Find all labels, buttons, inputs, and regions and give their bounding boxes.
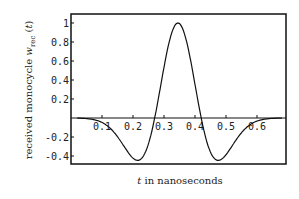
y-tick-label: -0.2 [45,132,69,143]
x-tick-label: 0.5 [217,121,235,132]
x-tick-label: 0.4 [186,121,204,132]
x-tick-label: 0.2 [124,121,142,132]
y-tick-label: 0.2 [51,94,69,105]
y-axis-label: received monocycle wrec (t) [23,21,37,160]
x-tick-label: 0.3 [155,121,173,132]
y-tick-label: 0.4 [51,75,69,86]
y-tick-label: -0.4 [45,151,69,162]
waveform-line [77,23,282,160]
x-tick-label: 0.6 [248,121,266,132]
chart: 0.10.20.30.40.50.6 10.80.60.40.2-0.2-0.4… [0,0,299,199]
x-axis-label: t in nanoseconds [137,175,223,186]
y-ticks: 10.80.60.40.2-0.2-0.4 [45,18,74,162]
y-tick-label: 0.8 [51,37,69,48]
plot-frame [71,14,286,164]
y-tick-label: 1 [63,18,69,29]
y-tick-label: 0.6 [51,56,69,67]
